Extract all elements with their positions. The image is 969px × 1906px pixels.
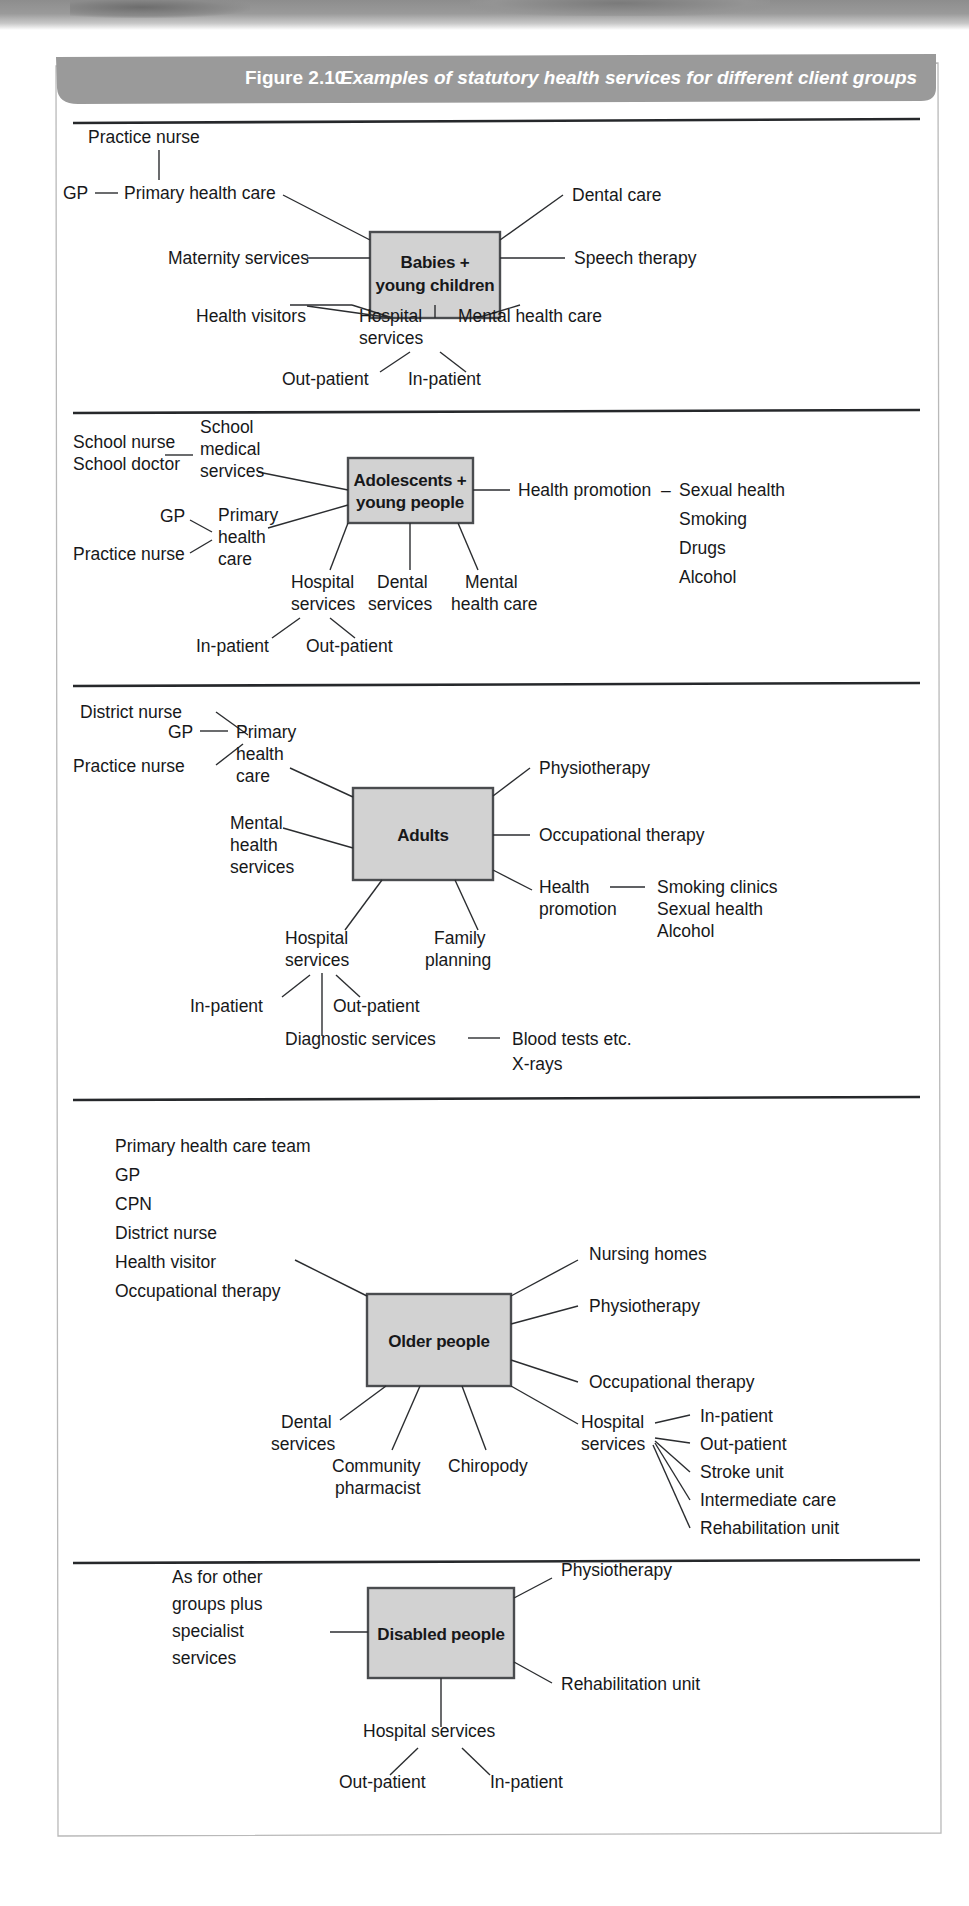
label-practice-nurse-adol: Practice nurse: [73, 544, 185, 564]
label-chiropody: Chiropody: [448, 1456, 528, 1476]
connector-hospital-older: [511, 1386, 578, 1424]
label-mental-adults-l3: services: [230, 857, 294, 877]
label-gp-older: GP: [115, 1165, 140, 1185]
label-primary-health-care: Primary health care: [124, 183, 276, 203]
label-out-patient-adults: Out-patient: [333, 996, 420, 1016]
label-gp-adol: GP: [160, 506, 185, 526]
label-in-patient-older: In-patient: [700, 1406, 773, 1426]
label-out-patient: Out-patient: [282, 369, 369, 389]
label-mental-adol-l1: Mental: [465, 572, 518, 592]
connector-gp-primary: [190, 520, 212, 532]
label-ot-right-older: Occupational therapy: [589, 1372, 755, 1392]
label-district-nurse-adults: District nurse: [80, 702, 182, 722]
connector-school-medical-box: [258, 472, 348, 490]
label-alcohol-adol: Alcohol: [679, 567, 736, 587]
label-stroke-unit: Stroke unit: [700, 1462, 784, 1482]
label-hospital-adol-l2: services: [291, 594, 355, 614]
connector-mental-adults: [283, 828, 353, 848]
label-dental-care: Dental care: [572, 185, 662, 205]
label-diagnostic-services: Diagnostic services: [285, 1029, 436, 1049]
connector-mental-adol: [458, 523, 478, 570]
label-hospital-adults-l2: services: [285, 950, 349, 970]
connector-outpatient-older: [655, 1438, 690, 1443]
label-in-patient-adol: In-patient: [196, 636, 269, 656]
label-health-promotion-dash: –: [661, 480, 671, 500]
connector-inpatient-older: [655, 1415, 690, 1423]
label-school-medical-l3: services: [200, 461, 264, 481]
label-physiotherapy-older: Physiotherapy: [589, 1296, 700, 1316]
connector-community-pharmacist: [392, 1386, 420, 1450]
label-maternity-services: Maternity services: [168, 248, 309, 268]
connector-rehab-disabled: [514, 1662, 552, 1683]
connector-practicenurse-primary: [190, 540, 212, 553]
label-x-rays: X-rays: [512, 1054, 563, 1074]
label-hospital-adults-l1: Hospital: [285, 928, 348, 948]
label-health-promotion-adults-l2: promotion: [539, 899, 617, 919]
label-primary-adults-l2: health: [236, 744, 284, 764]
label-as-for-other-l4: services: [172, 1648, 236, 1668]
label-in-patient-adults: In-patient: [190, 996, 263, 1016]
section-babies: Babies + young children Practice nurse G…: [63, 119, 920, 389]
connector-hospital-adults: [345, 880, 382, 930]
label-health-visitor-older: Health visitor: [115, 1252, 216, 1272]
node-box-adolescents: [348, 458, 473, 523]
connector-inpatient-adults: [282, 975, 310, 997]
label-drugs-adol: Drugs: [679, 538, 726, 558]
label-hospital-services-disabled: Hospital services: [363, 1721, 496, 1741]
label-primary-l1: Primary: [218, 505, 279, 525]
label-school-medical-l1: School: [200, 417, 254, 437]
label-hospital-older-l2: services: [581, 1434, 645, 1454]
figure-svg: Figure 2.10 Examples of statutory health…: [0, 0, 969, 1906]
node-label-babies-line1: Babies +: [401, 253, 470, 272]
label-dental-older-l2: services: [271, 1434, 335, 1454]
node-label-adults: Adults: [397, 826, 449, 845]
connector-physio-disabled: [514, 1578, 552, 1598]
label-rehabilitation-unit-disabled: Rehabilitation unit: [561, 1674, 700, 1694]
label-dental-adol-l1: Dental: [377, 572, 428, 592]
label-family-planning-l1: Family: [434, 928, 486, 948]
connector-nursing-homes: [511, 1260, 578, 1296]
label-rehabilitation-unit-older: Rehabilitation unit: [700, 1518, 839, 1538]
label-sexual-health-adults: Sexual health: [657, 899, 763, 919]
label-cpn-older: CPN: [115, 1194, 152, 1214]
connector-outpatient: [380, 352, 410, 372]
label-school-doctor: School doctor: [73, 454, 180, 474]
label-primary-l3: care: [218, 549, 252, 569]
label-physiotherapy-disabled: Physiotherapy: [561, 1560, 672, 1580]
connector-intermediate-care: [655, 1443, 690, 1500]
label-as-for-other-l1: As for other: [172, 1567, 263, 1587]
label-gp: GP: [63, 183, 88, 203]
label-health-promotion-adults-l1: Health: [539, 877, 590, 897]
connector-hp-adults: [493, 870, 532, 890]
label-district-nurse-older: District nurse: [115, 1223, 217, 1243]
connector-inpatient-adol: [272, 618, 300, 638]
label-hospital-adol-l1: Hospital: [291, 572, 354, 592]
label-primary-l2: health: [218, 527, 266, 547]
connector-family-adults: [455, 880, 478, 930]
label-mental-adults-l1: Mental: [230, 813, 283, 833]
connector-chiropody: [462, 1386, 486, 1450]
section-older-people: Older people Primary health care team GP…: [73, 1097, 920, 1538]
connector-outpatient-disabled: [390, 1748, 418, 1775]
label-physiotherapy-adults: Physiotherapy: [539, 758, 650, 778]
figure-number: Figure 2.10: [245, 67, 345, 88]
label-smoking-clinics-adults: Smoking clinics: [657, 877, 778, 897]
connector-rehabilitation-unit: [653, 1445, 690, 1528]
label-intermediate-care: Intermediate care: [700, 1490, 836, 1510]
label-school-medical-l2: medical: [200, 439, 260, 459]
label-health-promotion-adol: Health promotion: [518, 480, 651, 500]
section-adults: Adults District nurse GP Practice nurse …: [73, 683, 920, 1074]
label-mental-adol-l2: health care: [451, 594, 538, 614]
label-out-patient-adol: Out-patient: [306, 636, 393, 656]
node-label-babies-line2: young children: [375, 276, 494, 295]
connector-physio-adults: [493, 768, 530, 796]
label-gp-adults: GP: [168, 722, 193, 742]
connector-primary-box: [268, 505, 348, 528]
connector-outpatient-adol: [330, 618, 355, 638]
node-label-older-people: Older people: [388, 1332, 490, 1351]
connector-stroke-unit: [655, 1441, 690, 1472]
connector-hospital-adol: [330, 523, 348, 570]
connector-ot-older: [511, 1360, 578, 1382]
label-primary-adults-l3: care: [236, 766, 270, 786]
label-in-patient-disabled: In-patient: [490, 1772, 563, 1792]
